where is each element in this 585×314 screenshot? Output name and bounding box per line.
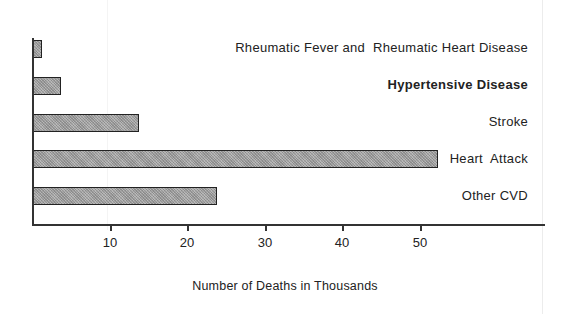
x-tick-label-40: 40 <box>335 235 349 250</box>
y-axis-line <box>32 38 34 225</box>
category-label-stroke: Stroke <box>489 114 528 129</box>
bar-heart-attack <box>32 150 438 168</box>
x-tick-40 <box>342 224 344 231</box>
bar-hypertensive <box>32 77 61 95</box>
bar-other-cvd <box>32 187 217 205</box>
category-label-other-cvd: Other CVD <box>462 188 528 203</box>
category-label-hypertensive: Hypertensive Disease <box>388 77 528 92</box>
x-tick-label-50: 50 <box>413 235 427 250</box>
x-tick-30 <box>265 224 267 231</box>
bar-rheumatic <box>32 40 42 58</box>
x-tick-20 <box>187 224 189 231</box>
category-label-rheumatic: Rheumatic Fever and Rheumatic Heart Dise… <box>235 40 528 55</box>
x-tick-50 <box>420 224 422 231</box>
x-tick-label-30: 30 <box>258 235 272 250</box>
category-label-heart-attack: Heart Attack <box>450 151 528 166</box>
x-tick-10 <box>110 224 112 231</box>
x-axis-line <box>32 224 545 226</box>
x-tick-label-20: 20 <box>180 235 194 250</box>
bar-stroke <box>32 114 139 132</box>
page-edge-line <box>542 0 543 314</box>
bar-chart: Rheumatic Fever and Rheumatic Heart Dise… <box>0 0 585 314</box>
x-axis-title: Number of Deaths in Thousands <box>0 279 570 293</box>
x-tick-label-10: 10 <box>103 235 117 250</box>
